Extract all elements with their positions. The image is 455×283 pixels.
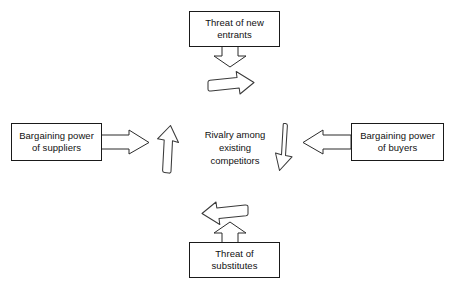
node-label-bargaining-power-of-buyers: Bargaining power of buyers <box>357 130 438 155</box>
node-label-threat-of-substitutes: Threat of substitutes <box>209 248 261 273</box>
node-label-rivalry-among-existing-competitors: Rivalry among existing competitors <box>202 128 269 167</box>
node-rivalry-among-existing-competitors: Rivalry among existing competitors <box>185 125 285 170</box>
node-label-threat-of-new-entrants: Threat of new entrants <box>202 17 267 42</box>
arrow-bottom-up <box>211 222 249 244</box>
porter-five-forces-diagram: Threat of new entrants Bargaining power … <box>0 0 455 283</box>
arrow-right-left <box>303 130 352 155</box>
arrow-left-right <box>101 130 150 155</box>
node-bargaining-power-of-suppliers: Bargaining power of suppliers <box>11 123 102 161</box>
arrow-left-sketch-up <box>154 124 182 174</box>
node-threat-of-new-entrants: Threat of new entrants <box>189 11 280 47</box>
node-threat-of-substitutes: Threat of substitutes <box>189 242 280 278</box>
arrow-top-down <box>211 46 249 68</box>
node-label-bargaining-power-of-suppliers: Bargaining power of suppliers <box>16 130 97 155</box>
node-bargaining-power-of-buyers: Bargaining power of buyers <box>351 123 444 161</box>
arrow-top-sketch-right <box>205 70 260 104</box>
